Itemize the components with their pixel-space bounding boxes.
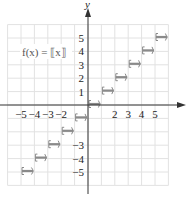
y-tick-label: 3	[79, 59, 85, 71]
step-segment	[62, 127, 73, 134]
y-tick-label: 1	[79, 86, 85, 98]
step-segment	[76, 114, 87, 121]
y-tick-label: 4	[79, 45, 85, 57]
x-tick-label: 3	[125, 108, 131, 120]
step-segment	[143, 47, 154, 54]
y-axis-label: y	[84, 0, 90, 10]
x-tick-label: −3	[42, 108, 54, 120]
step-segment	[156, 34, 167, 41]
step-segment	[116, 74, 127, 81]
function-label: f(x) = ⟦x⟧	[22, 46, 66, 59]
step-function-chart: y x f(x) = ⟦x⟧ −5−4−3−22345 54321−3−4−5	[0, 0, 188, 202]
x-tick-label: −4	[29, 108, 41, 120]
y-tick-label: 5	[79, 32, 85, 44]
step-segment	[89, 101, 100, 108]
y-tick-label: −4	[72, 153, 84, 165]
step-segment	[22, 168, 33, 175]
step-segment	[102, 87, 113, 94]
step-segment	[35, 154, 46, 161]
x-axis-arrow-icon	[177, 102, 186, 108]
y-tick-label: −5	[72, 166, 84, 178]
x-tick-label: −2	[55, 108, 67, 120]
x-tick-label: 4	[139, 108, 145, 120]
x-tick-label: 2	[112, 108, 118, 120]
step-segment	[129, 60, 140, 67]
x-tick-label: −5	[15, 108, 27, 120]
step-segment	[49, 141, 60, 148]
y-tick-label: −3	[72, 139, 84, 151]
y-tick-label: 2	[79, 72, 85, 84]
x-tick-label: 5	[152, 108, 158, 120]
